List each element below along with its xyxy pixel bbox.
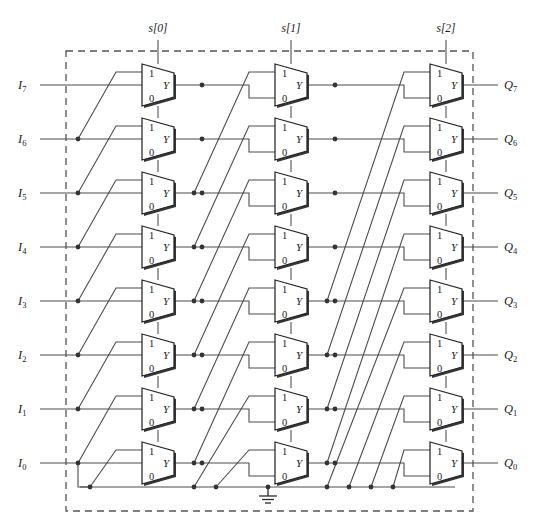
- branch-dot-stage1-bit7: [76, 137, 81, 142]
- branch-dot-stage2-bit5: [192, 299, 197, 304]
- mux-pin-0-label: 0: [282, 201, 287, 212]
- mux-pin-0-label: 0: [437, 471, 442, 482]
- mux-pin-1-label: 1: [437, 230, 442, 241]
- mux-stage1-bit5[interactable]: 10Y: [142, 172, 176, 216]
- mux-stage1-bit6[interactable]: 10Y: [142, 118, 176, 162]
- stage2-bit3-pin1-wire: [194, 288, 275, 409]
- mux-pin-0-label: 0: [149, 471, 154, 482]
- mux-stage2-bit1[interactable]: 10Y: [275, 388, 309, 432]
- mux-pin-0-label: 0: [282, 255, 287, 266]
- wire-layer: [40, 72, 498, 487]
- mux-pin-1-label: 1: [437, 338, 442, 349]
- stage2-bit7-pin0-wire: [174, 85, 275, 98]
- mux-pin-1-label: 1: [282, 446, 287, 457]
- input-label-I7: I7: [17, 78, 26, 94]
- input-label-subscript: 7: [22, 84, 26, 94]
- mux-stage1-bit1[interactable]: 10Y: [142, 388, 176, 432]
- ground-tap-stage3-bit2: [347, 485, 352, 490]
- mux-stage1-bit0[interactable]: 10Y: [142, 442, 176, 486]
- ground-tap-stage2-bit1: [192, 485, 197, 490]
- mux-pin-0-label: 0: [282, 363, 287, 374]
- stage2-bit0-pin1-wire: [216, 450, 275, 487]
- ground-tap-stage3-bit1: [369, 485, 374, 490]
- mux-pin-1-label: 1: [149, 68, 154, 79]
- stage3-bit6-pin1-wire: [327, 126, 430, 355]
- ground-tap-stage1-bit0: [88, 485, 93, 490]
- mux-stage2-bit4[interactable]: 10Y: [275, 226, 309, 270]
- stage2-bit5-pin1-wire: [194, 180, 275, 301]
- mux-pin-1-label: 1: [149, 122, 154, 133]
- mux-stage3-bit6[interactable]: 10Y: [430, 118, 464, 162]
- tap-dot-stage3-bit6: [333, 137, 338, 142]
- mux-layer: 10Y10Y10Y10Y10Y10Y10Y10Y10Y10Y10Y10Y10Y1…: [142, 64, 464, 486]
- mux-pin-0-label: 0: [282, 147, 287, 158]
- output-label-subscript: 7: [513, 84, 517, 94]
- input-label-subscript: 5: [22, 192, 26, 202]
- branch-dot-stage3-bit5: [325, 407, 330, 412]
- mux-pin-1-label: 1: [437, 284, 442, 295]
- input-label-I4: I4: [17, 240, 27, 256]
- mux-stage3-bit1[interactable]: 10Y: [430, 388, 464, 432]
- mux-pin-0-label: 0: [282, 471, 287, 482]
- stage2-bit2-pin1-wire: [194, 342, 275, 463]
- stage3-bit5-pin1-wire: [327, 180, 430, 409]
- mux-stage2-bit6[interactable]: 10Y: [275, 118, 309, 162]
- stage2-bit4-pin1-wire: [194, 234, 275, 355]
- mux-stage2-bit2[interactable]: 10Y: [275, 334, 309, 378]
- mux-stage2-bit7[interactable]: 10Y: [275, 64, 309, 108]
- mux-pin-0-label: 0: [437, 363, 442, 374]
- mux-stage1-bit2[interactable]: 10Y: [142, 334, 176, 378]
- output-label-Q4: Q4: [504, 240, 518, 256]
- mux-pin-1-label: 1: [282, 176, 287, 187]
- barrel-shifter-diagram: 10Y10Y10Y10Y10Y10Y10Y10Y10Y10Y10Y10Y10Y1…: [0, 0, 538, 531]
- mux-stage2-bit0[interactable]: 10Y: [275, 442, 309, 486]
- stage1-bit0-pin1-wire: [90, 450, 142, 487]
- input-label-I0: I0: [17, 456, 26, 472]
- mux-stage3-bit7[interactable]: 10Y: [430, 64, 464, 108]
- stage3-bit0-pin0-wire: [307, 463, 430, 476]
- mux-stage1-bit7[interactable]: 10Y: [142, 64, 176, 108]
- branch-dot-stage1-bit1: [76, 461, 81, 466]
- mux-stage3-bit2[interactable]: 10Y: [430, 334, 464, 378]
- mux-stage2-bit5[interactable]: 10Y: [275, 172, 309, 216]
- tap-dot-stage2-bit2: [200, 353, 205, 358]
- mux-pin-0-label: 0: [437, 417, 442, 428]
- mux-pin-1-label: 1: [149, 392, 154, 403]
- branch-dot-stage1-bit5: [76, 245, 81, 250]
- branch-dot-stage2-bit7: [192, 191, 197, 196]
- tap-dot-stage3-bit0: [333, 461, 338, 466]
- mux-stage1-bit4[interactable]: 10Y: [142, 226, 176, 270]
- input-label-subscript: 4: [22, 246, 27, 256]
- mux-pin-1-label: 1: [282, 338, 287, 349]
- mux-pin-0-label: 0: [282, 93, 287, 104]
- output-label-subscript: 6: [513, 138, 517, 148]
- input-label-I3: I3: [17, 294, 26, 310]
- branch-dot-stage2-bit4: [192, 353, 197, 358]
- mux-stage3-bit3[interactable]: 10Y: [430, 280, 464, 324]
- input-label-subscript: 0: [22, 462, 26, 472]
- mux-pin-1-label: 1: [282, 68, 287, 79]
- stage3-bit7-pin0-wire: [307, 85, 430, 98]
- input-label-I1: I1: [17, 402, 26, 418]
- mux-pin-0-label: 0: [437, 309, 442, 320]
- mux-stage3-bit0[interactable]: 10Y: [430, 442, 464, 486]
- input-label-subscript: 6: [22, 138, 26, 148]
- mux-pin-1-label: 1: [149, 230, 154, 241]
- stage3-bit3-pin1-wire: [327, 288, 430, 487]
- stage1-bit7-pin1-wire: [78, 72, 142, 139]
- mux-pin-0-label: 0: [149, 363, 154, 374]
- stage2-bit6-pin1-wire: [194, 126, 275, 247]
- ground-tap-stage2-bit0: [214, 485, 219, 490]
- stage2-bit6-pin0-wire: [174, 139, 275, 152]
- input-label-I6: I6: [17, 132, 26, 148]
- stage3-bit1-pin0-wire: [307, 409, 430, 422]
- mux-stage2-bit3[interactable]: 10Y: [275, 280, 309, 324]
- select-label-s0: s[0]: [148, 22, 167, 34]
- branch-dot-stage3-bit6: [325, 353, 330, 358]
- mux-stage1-bit3[interactable]: 10Y: [142, 280, 176, 324]
- mux-stage3-bit4[interactable]: 10Y: [430, 226, 464, 270]
- input-label-subscript: 1: [22, 408, 26, 418]
- mux-pin-0-label: 0: [149, 93, 154, 104]
- branch-dot-stage1-bit4: [76, 299, 81, 304]
- mux-stage3-bit5[interactable]: 10Y: [430, 172, 464, 216]
